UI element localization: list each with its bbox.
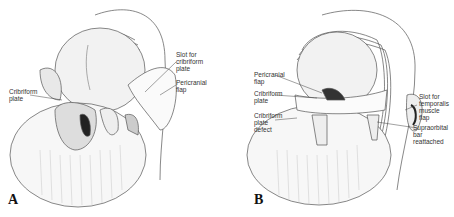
panel-letter-b: B — [254, 192, 263, 208]
label-pericranial-flap-b: Pericranial flap — [254, 71, 285, 85]
label-cribriform-plate: Cribriform plate — [9, 88, 38, 102]
label-cribriform-plate-b: Cribriform plate — [254, 90, 283, 104]
label-slot-cribriform: Slot for cribriform plate — [176, 51, 203, 72]
panel-letter-a: A — [8, 192, 18, 208]
panel-b: Pericranial flap Cribriform plate Cribri… — [227, 0, 454, 217]
label-slot-temporalis: Slot for temporalis muscle flap — [419, 93, 449, 121]
label-cribriform-defect: Cribriform plate defect — [254, 112, 283, 133]
illustration-a — [0, 0, 227, 217]
label-supraorbital-bar: Supraorbital bar reattached — [413, 124, 448, 145]
label-pericranial-flap: Pericranial flap — [176, 79, 207, 93]
panel-a: Cribriform plate Slot for cribriform pla… — [0, 0, 227, 217]
